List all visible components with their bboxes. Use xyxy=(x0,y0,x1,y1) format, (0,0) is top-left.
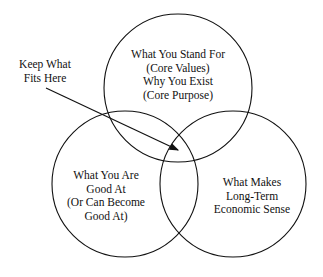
label-line: What You Are xyxy=(56,169,156,183)
label-line: (Or Can Become xyxy=(56,196,156,210)
annotation-keep-what-fits: Keep What Fits Here xyxy=(15,58,75,85)
label-line: Good At) xyxy=(56,210,156,224)
label-line: Keep What xyxy=(15,58,75,72)
label-line: Why You Exist xyxy=(128,75,228,89)
label-line: (Core Purpose) xyxy=(128,89,228,103)
label-line: Good At xyxy=(56,183,156,197)
label-line: What Makes xyxy=(202,176,302,190)
venn-diagram xyxy=(0,0,323,277)
label-line: Economic Sense xyxy=(202,203,302,217)
label-line: What You Stand For xyxy=(128,48,228,62)
label-core-values: What You Stand For (Core Values) Why You… xyxy=(128,48,228,102)
label-line: Fits Here xyxy=(15,72,75,86)
label-line: Long-Term xyxy=(202,190,302,204)
label-line: (Core Values) xyxy=(128,62,228,76)
label-good-at: What You Are Good At (Or Can Become Good… xyxy=(56,169,156,223)
label-economic-sense: What Makes Long-Term Economic Sense xyxy=(202,176,302,217)
